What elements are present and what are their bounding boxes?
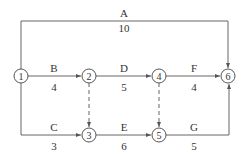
node-1-label: 1 (19, 71, 24, 82)
activity-d-name: D (120, 62, 128, 74)
node-6-label: 6 (226, 71, 231, 82)
activity-g-name: G (190, 121, 198, 133)
activity-a-duration: 10 (119, 22, 131, 34)
activity-f-name: F (191, 62, 197, 74)
activity-e-duration: 6 (121, 140, 127, 152)
activity-a-name: A (120, 7, 128, 19)
node-5-label: 5 (157, 130, 162, 141)
activity-b-name: B (50, 62, 57, 74)
node-5: 5 (152, 128, 166, 142)
node-3: 3 (82, 128, 96, 142)
network-svg: A 10 B 4 C 3 D 5 E 6 F 4 G 5 1 (0, 0, 243, 157)
node-3-label: 3 (87, 130, 92, 141)
node-2-label: 2 (87, 71, 92, 82)
node-4-label: 4 (157, 71, 162, 82)
activity-e-name: E (121, 121, 128, 133)
node-4: 4 (152, 69, 166, 83)
activity-d-duration: 5 (121, 81, 127, 93)
activity-f-duration: 4 (191, 81, 197, 93)
node-1: 1 (14, 69, 28, 83)
node-6: 6 (221, 69, 235, 83)
activity-c-duration: 3 (51, 140, 57, 152)
activity-g-duration: 5 (191, 140, 197, 152)
network-diagram: A 10 B 4 C 3 D 5 E 6 F 4 G 5 1 (0, 0, 243, 157)
activity-b-duration: 4 (51, 81, 57, 93)
activity-c-name: C (50, 121, 57, 133)
node-2: 2 (82, 69, 96, 83)
